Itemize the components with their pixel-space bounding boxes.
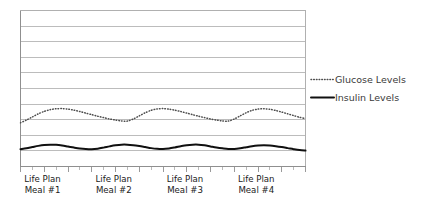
legend-label-insulin: Insulin Levels (335, 92, 399, 103)
category-label: Life PlanMeal #2 (96, 174, 133, 195)
category-label: Life PlanMeal #3 (167, 174, 204, 195)
chart-canvas: Life PlanMeal #1Life PlanMeal #2Life Pla… (0, 0, 422, 209)
category-label: Life PlanMeal #1 (24, 174, 61, 195)
glucose-insulin-chart: Life PlanMeal #1Life PlanMeal #2Life Pla… (0, 0, 422, 209)
category-label: Life PlanMeal #4 (238, 174, 275, 195)
legend-label-glucose: Glucose Levels (335, 74, 406, 85)
